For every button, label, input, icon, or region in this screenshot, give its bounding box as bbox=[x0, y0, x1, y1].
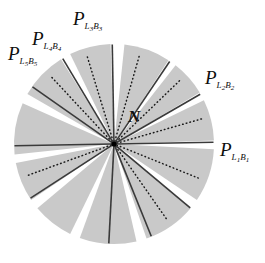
port-label-p-l4b4: PL4B4 bbox=[32, 29, 61, 53]
port-label-p-l3b3: PL3B3 bbox=[73, 9, 102, 33]
port-label-base: P bbox=[73, 8, 85, 29]
subscript-branch-index: 3 bbox=[99, 25, 103, 33]
port-label-subscript: L1B1 bbox=[232, 152, 250, 162]
port-label-subscript: L4B4 bbox=[44, 41, 62, 51]
port-label-subscript: L3B3 bbox=[85, 21, 103, 31]
port-label-p-l2b2: PL2B2 bbox=[205, 68, 234, 92]
port-label-p-l1b1: PL1B1 bbox=[220, 140, 249, 164]
subscript-branch-index: 1 bbox=[246, 156, 250, 164]
figure-canvas: N PL5B5PL4B4PL3B3PL2B2PL1B1 bbox=[0, 0, 265, 263]
port-label-base: P bbox=[220, 139, 232, 160]
center-node-dot bbox=[111, 141, 116, 146]
port-label-base: P bbox=[205, 67, 217, 88]
center-node-label: N bbox=[128, 108, 140, 125]
port-label-subscript: L2B2 bbox=[217, 80, 235, 90]
port-label-subscript: L5B5 bbox=[20, 56, 38, 66]
subscript-branch-index: 2 bbox=[231, 84, 235, 92]
port-label-base: P bbox=[8, 43, 20, 64]
subscript-branch-index: 4 bbox=[58, 45, 62, 53]
center-node-group bbox=[111, 141, 116, 146]
port-label-base: P bbox=[32, 28, 44, 49]
subscript-branch-index: 5 bbox=[34, 60, 38, 68]
